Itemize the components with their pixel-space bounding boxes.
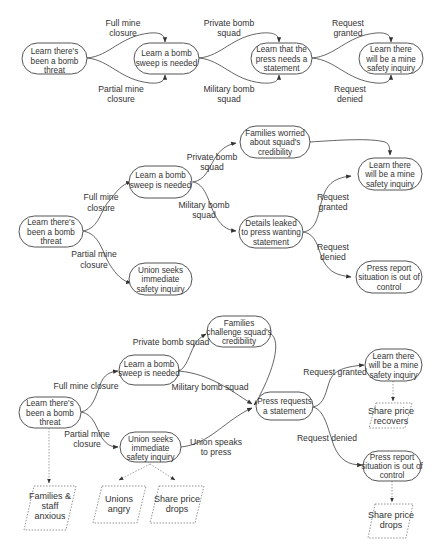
svg-text:immediate: immediate	[132, 444, 170, 453]
diagram-1: Learn there's been a bomb threat Learn a…	[22, 18, 423, 104]
edge-full-closure	[81, 371, 118, 412]
edge-to-unions-angry	[119, 464, 150, 480]
node-bomb-sweep: Learn a bomb sweep is needed	[134, 43, 199, 74]
svg-text:safety inquiry: safety inquiry	[367, 64, 416, 73]
node-bomb-sweep: Learn a bomb sweep is needed	[118, 355, 180, 385]
node-union-inquiry: Union seeks immediate safety inquiry	[120, 432, 181, 462]
svg-text:sweep is needed: sweep is needed	[136, 59, 198, 68]
label-request-granted: Request granted	[317, 192, 350, 212]
svg-text:drops: drops	[380, 520, 403, 530]
svg-text:Learn there: Learn there	[370, 45, 412, 54]
svg-text:control: control	[377, 283, 402, 292]
svg-text:denied: denied	[320, 252, 346, 262]
svg-text:closure: closure	[109, 28, 137, 38]
svg-text:been a bomb: been a bomb	[31, 57, 79, 66]
svg-text:recovers: recovers	[374, 416, 409, 426]
label-request-granted: Request granted	[303, 367, 367, 377]
svg-text:Share price: Share price	[368, 406, 414, 416]
svg-text:closure: closure	[80, 260, 108, 270]
node-union-inquiry: Union seeks immediate safety inquiry	[129, 263, 192, 295]
svg-text:Full mine: Full mine	[84, 192, 119, 202]
svg-text:credibility: credibility	[222, 337, 257, 346]
outcome-share-recovers: Share price recovers	[368, 403, 414, 428]
svg-text:Learn a bomb: Learn a bomb	[124, 360, 175, 369]
svg-text:Request: Request	[317, 242, 350, 252]
svg-text:safety inquiry: safety inquiry	[369, 371, 418, 380]
label-full-closure: Full mine closure	[84, 192, 119, 213]
svg-text:granted: granted	[318, 202, 347, 212]
svg-text:Request: Request	[332, 18, 365, 28]
svg-text:Partial mine: Partial mine	[71, 249, 117, 259]
svg-text:Military bomb: Military bomb	[178, 200, 229, 210]
svg-text:situation is out of: situation is out of	[361, 462, 423, 471]
svg-text:Families worried: Families worried	[245, 129, 305, 138]
svg-text:Share price: Share price	[368, 510, 414, 520]
scenario-diagrams: Learn there's been a bomb threat Learn a…	[0, 0, 437, 554]
svg-text:squad: squad	[200, 162, 224, 172]
node-bomb-threat: Learn there's been a bomb threat	[19, 216, 83, 247]
node-families-worried: Families worried about squad's credibili…	[240, 126, 310, 158]
label-request-denied: Request denied	[297, 433, 357, 443]
label-private-squad: Private bomb squad	[133, 337, 210, 347]
node-bomb-threat: Learn there's been a bomb threat	[22, 43, 87, 75]
svg-text:Learn a bomb: Learn a bomb	[135, 171, 186, 180]
label-request-granted: Request granted	[332, 18, 365, 38]
svg-text:Families: Families	[224, 319, 254, 328]
svg-text:press needs a: press needs a	[256, 55, 308, 64]
svg-text:Learn there: Learn there	[373, 352, 415, 361]
svg-text:squad: squad	[217, 94, 241, 104]
svg-text:sweep is needed: sweep is needed	[118, 369, 180, 378]
svg-text:closure: closure	[107, 94, 135, 104]
svg-text:granted: granted	[333, 28, 362, 38]
label-military-squad: Military bomb squad	[178, 200, 229, 220]
svg-text:Families &: Families &	[29, 491, 71, 501]
svg-text:Press report: Press report	[370, 453, 415, 462]
svg-text:staff: staff	[42, 501, 59, 511]
svg-text:Learn there's: Learn there's	[27, 218, 75, 227]
node-safety-inquiry: Learn there will be a mine safety inquir…	[365, 349, 422, 381]
svg-text:Union seeks: Union seeks	[138, 266, 183, 275]
label-private-squad: Private bomb squad	[187, 152, 238, 172]
svg-text:Private bomb: Private bomb	[187, 152, 238, 162]
svg-text:Press report: Press report	[367, 264, 412, 273]
svg-text:Request: Request	[317, 192, 350, 202]
svg-text:will be a mine: will be a mine	[364, 170, 415, 179]
svg-text:a statement: a statement	[263, 407, 307, 416]
node-text: Learn there's	[31, 47, 79, 56]
diagram-3: Learn there's been a bomb threat Learn a…	[19, 316, 423, 538]
svg-text:closure: closure	[87, 203, 115, 213]
svg-text:Learn a bomb: Learn a bomb	[141, 49, 192, 58]
label-military-squad: Military bomb squad	[203, 84, 254, 104]
outcome-share-drops-right: Share price drops	[368, 504, 414, 538]
svg-text:safety inquiry: safety inquiry	[366, 180, 415, 189]
svg-text:angry: angry	[108, 504, 131, 514]
svg-text:safety inquiry: safety inquiry	[126, 453, 175, 462]
svg-text:immediate: immediate	[142, 275, 180, 284]
node-bomb-sweep: Learn a bomb sweep is needed	[129, 166, 192, 198]
svg-text:to press: to press	[201, 447, 232, 457]
svg-text:statement: statement	[253, 238, 290, 247]
svg-text:Request: Request	[334, 84, 367, 94]
svg-text:Learn there's: Learn there's	[26, 399, 74, 408]
node-families-challenge: Families challenge squad's credibility	[206, 316, 271, 347]
svg-text:Private bomb: Private bomb	[204, 18, 255, 28]
svg-text:Full mine: Full mine	[106, 18, 141, 28]
svg-text:situation is out of: situation is out of	[358, 273, 420, 282]
diagram-2: Learn there's been a bomb threat Learn a…	[19, 126, 422, 295]
label-full-closure: Full mine closure	[54, 381, 119, 391]
node-press-report: Press report situation is out of control	[361, 451, 423, 481]
label-union-speaks: Union speaks to press	[190, 437, 242, 457]
node-safety-inquiry: Learn there will be a mine safety inquir…	[359, 43, 423, 74]
edge-to-share-drops-left	[150, 464, 175, 480]
svg-text:Unions: Unions	[105, 494, 134, 504]
svg-text:Share price: Share price	[154, 494, 200, 504]
label-partial-closure: Partial mine closure	[71, 249, 117, 270]
edge-families-to-inquiry	[310, 140, 390, 155]
svg-text:squad: squad	[217, 28, 241, 38]
svg-text:Learn there: Learn there	[369, 161, 411, 170]
node-press-statement: Learn that the press needs a statement	[251, 43, 312, 74]
label-full-closure: Full mine closure	[106, 18, 141, 38]
svg-text:been a bomb: been a bomb	[26, 409, 74, 418]
svg-text:closure: closure	[73, 439, 101, 449]
svg-text:will be a mine: will be a mine	[368, 361, 419, 370]
